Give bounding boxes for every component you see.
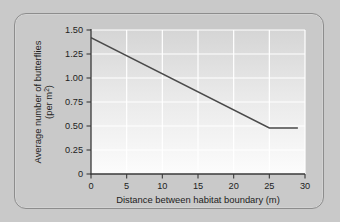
y-tick-label-0.75: 0.75 [65, 97, 83, 107]
butterfly-distance-line-chart: 1.50 1.25 1.00 0.75 0.50 0.25 0 0 5 10 1… [15, 14, 325, 210]
x-tick-label-5: 5 [124, 181, 129, 191]
y-axis-title: Average number of butterflies (per m2) [32, 40, 54, 163]
y-axis-tick-labels: 1.50 1.25 1.00 0.75 0.50 0.25 0 [65, 25, 83, 179]
y-axis-title-unit: (per m [43, 92, 54, 119]
y-axis-title-line2: (per m2) [43, 85, 54, 119]
y-tick-label-0.25: 0.25 [65, 145, 83, 155]
chart-svg: 1.50 1.25 1.00 0.75 0.50 0.25 0 0 5 10 1… [15, 14, 325, 210]
y-tick-label-1.25: 1.25 [65, 49, 83, 59]
x-tick-label-25: 25 [264, 181, 274, 191]
y-axis-title-line1: Average number of butterflies [32, 40, 43, 163]
x-tick-label-20: 20 [229, 181, 239, 191]
figure-card: 1.50 1.25 1.00 0.75 0.50 0.25 0 0 5 10 1… [14, 13, 324, 209]
y-tick-label-0.50: 0.50 [65, 121, 83, 131]
x-tick-label-15: 15 [193, 181, 203, 191]
x-axis-title: Distance between habitat boundary (m) [116, 194, 280, 205]
y-tick-label-1.50: 1.50 [65, 25, 83, 35]
y-axis-tick-marks [87, 30, 92, 174]
x-tick-label-30: 30 [300, 181, 310, 191]
y-tick-label-0: 0 [78, 169, 83, 179]
x-tick-label-10: 10 [157, 181, 167, 191]
x-axis-tick-labels: 0 5 10 15 20 25 30 [88, 181, 310, 191]
x-tick-label-0: 0 [88, 181, 93, 191]
y-axis-title-close-paren: ) [43, 85, 54, 88]
x-axis-tick-marks [91, 174, 305, 179]
y-tick-label-1.00: 1.00 [65, 73, 83, 83]
